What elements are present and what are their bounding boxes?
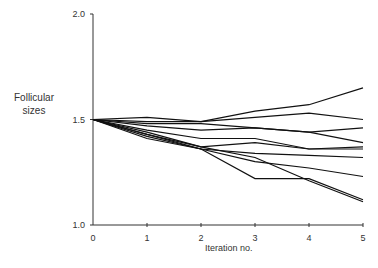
data-lines <box>93 88 363 202</box>
x-tick-label: 5 <box>360 233 365 243</box>
x-tick-label: 2 <box>198 233 203 243</box>
y-tick-label: 1.0 <box>72 220 85 230</box>
y-axis-label-line2: sizes <box>8 104 60 117</box>
y-axis-label: Follicular sizes <box>8 91 60 117</box>
x-tick-label: 0 <box>90 233 95 243</box>
x-axis-label: Iteration no. <box>205 243 253 253</box>
x-tick-label: 3 <box>252 233 257 243</box>
y-tick-label: 2.0 <box>72 9 85 19</box>
x-tick-label: 1 <box>144 233 149 243</box>
series-line-s1 <box>93 88 363 122</box>
line-chart: 1.01.52.0012345 <box>0 0 378 268</box>
x-tick-label: 4 <box>306 233 311 243</box>
y-tick-label: 1.5 <box>72 115 85 125</box>
y-axis-label-line1: Follicular <box>8 91 60 104</box>
